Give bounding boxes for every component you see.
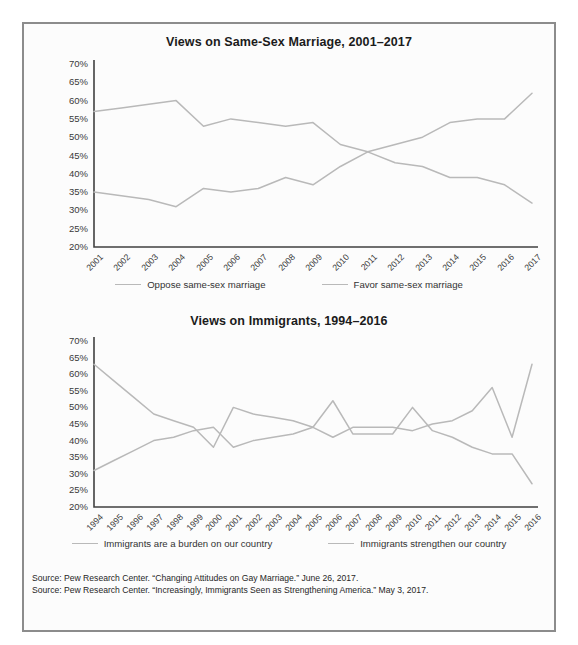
- y-axis-tick-label: 35%: [54, 452, 88, 462]
- legend-label: Oppose same-sex marriage: [147, 279, 265, 290]
- legend-line-swatch-icon: [328, 543, 354, 544]
- source-line-1: Source: Pew Research Center. “Changing A…: [32, 572, 546, 584]
- figure-frame: Views on Same-Sex Marriage, 2001–2017 70…: [22, 22, 556, 632]
- chart-same-sex-marriage: Views on Same-Sex Marriage, 2001–2017 70…: [24, 26, 554, 311]
- y-axis-tick-label: 45%: [54, 151, 88, 161]
- y-axis-tick-label: 20%: [54, 502, 88, 512]
- y-axis-tick-label: 65%: [54, 353, 88, 363]
- chart-2-plot-area: 70%65%60%55%50%45%40%35%30%25%20%1994199…: [24, 311, 554, 568]
- legend-label: Favor same-sex marriage: [354, 279, 463, 290]
- y-axis-tick-label: 70%: [54, 336, 88, 346]
- legend-line-swatch-icon: [72, 543, 98, 544]
- y-axis-tick-label: 40%: [54, 436, 88, 446]
- y-axis-tick-label: 35%: [54, 187, 88, 197]
- legend-label: Immigrants are a burden on our country: [104, 538, 273, 549]
- y-axis-tick-label: 30%: [54, 469, 88, 479]
- y-axis-tick-label: 70%: [54, 59, 88, 69]
- y-axis-tick-label: 25%: [54, 224, 88, 234]
- figure-page: Views on Same-Sex Marriage, 2001–2017 70…: [0, 0, 578, 645]
- chart-immigrants: Views on Immigrants, 1994–2016 70%65%60%…: [24, 311, 554, 568]
- legend-item-2: Immigrants strengthen our country: [328, 538, 506, 549]
- legend-line-swatch-icon: [115, 284, 141, 285]
- y-axis-tick-label: 50%: [54, 132, 88, 142]
- legend-item-1: Immigrants are a burden on our country: [72, 538, 273, 549]
- y-axis-tick-label: 50%: [54, 402, 88, 412]
- chart-1-legend: Oppose same-sex marriageFavor same-sex m…: [24, 279, 554, 290]
- legend-label: Immigrants strengthen our country: [360, 538, 506, 549]
- y-axis-tick-label: 40%: [54, 169, 88, 179]
- y-axis-tick-label: 60%: [54, 96, 88, 106]
- y-axis-tick-label: 60%: [54, 369, 88, 379]
- axis-lines: [94, 337, 538, 507]
- axis-lines: [94, 60, 538, 247]
- series-line-2: [94, 364, 532, 470]
- source-line-2: Source: Pew Research Center. “Increasing…: [32, 584, 546, 596]
- legend-line-swatch-icon: [322, 284, 348, 285]
- series-line-2: [94, 93, 532, 206]
- chart-1-plot-area: 70%65%60%55%50%45%40%35%30%25%20%2001200…: [24, 26, 554, 311]
- y-axis-tick-label: 45%: [54, 419, 88, 429]
- legend-item-2: Favor same-sex marriage: [322, 279, 463, 290]
- series-line-1: [94, 364, 532, 484]
- series-line-1: [94, 101, 532, 203]
- y-axis-tick-label: 30%: [54, 205, 88, 215]
- legend-item-1: Oppose same-sex marriage: [115, 279, 265, 290]
- y-axis-tick-label: 25%: [54, 485, 88, 495]
- y-axis-tick-label: 55%: [54, 114, 88, 124]
- source-notes: Source: Pew Research Center. “Changing A…: [32, 572, 546, 596]
- y-axis-tick-label: 65%: [54, 77, 88, 87]
- chart-2-legend: Immigrants are a burden on our countryIm…: [24, 538, 554, 549]
- y-axis-tick-label: 20%: [54, 242, 88, 252]
- y-axis-tick-label: 55%: [54, 386, 88, 396]
